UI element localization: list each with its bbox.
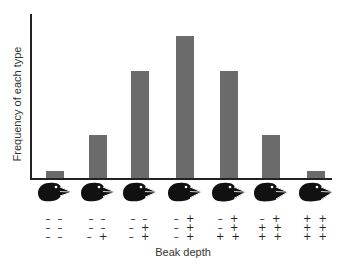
finch-head-icon [166, 181, 204, 203]
genotype-label: + ++ ++ + [301, 214, 331, 241]
genotype-row: + + [256, 232, 286, 241]
bar [220, 71, 238, 178]
finch-head-icon [252, 181, 290, 203]
bar [131, 71, 149, 178]
finch-head-icon [79, 181, 117, 203]
genotype-label: – +– +– + [170, 214, 200, 241]
finch-head-icon [210, 181, 248, 203]
bar [307, 171, 325, 178]
bar [262, 135, 280, 178]
finch-head-icon [121, 181, 159, 203]
genotype-label: – –– +– + [125, 214, 155, 241]
genotype-row: + + [301, 232, 331, 241]
y-axis-label: Frequency of each type [11, 47, 23, 162]
x-axis [30, 178, 332, 180]
genotype-row: – + [125, 232, 155, 241]
y-axis [30, 14, 32, 179]
genotype-row: – + [83, 232, 113, 241]
genotype-label: – +– ++ + [214, 214, 244, 241]
genotype-row: + + [214, 232, 244, 241]
bar [176, 36, 194, 178]
bar [46, 171, 64, 178]
genotype-label: – ++ ++ + [256, 214, 286, 241]
finch-head-icon [36, 181, 74, 203]
genotype-label: – –– –– – [40, 214, 70, 241]
genotype-row: – + [170, 232, 200, 241]
finch-head-icon [297, 181, 335, 203]
genotype-label: – –– –– + [83, 214, 113, 241]
bar [89, 135, 107, 178]
genotype-row: – – [40, 232, 70, 241]
x-axis-label: Beak depth [155, 246, 211, 258]
